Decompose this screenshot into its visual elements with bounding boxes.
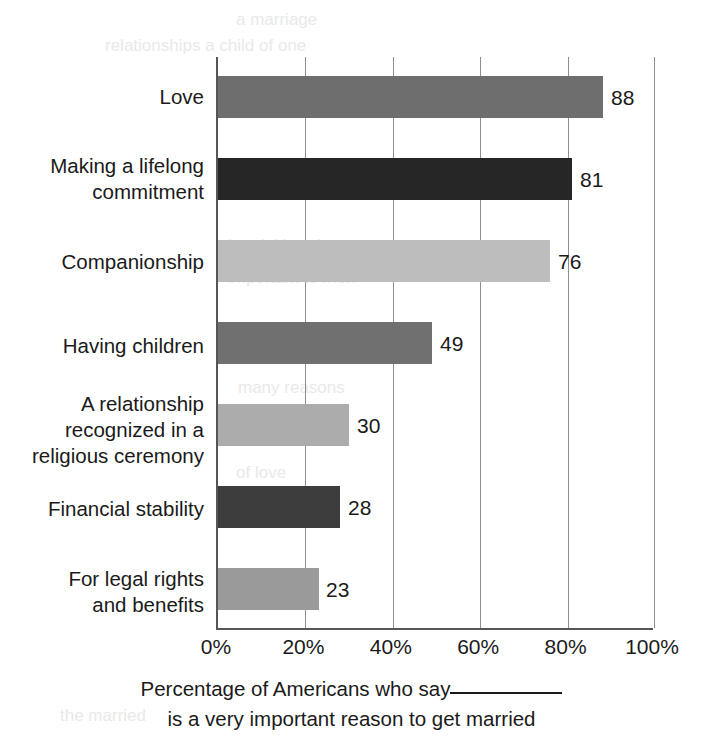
bar-chart: Love Making a lifelong commitment Compan… — [0, 0, 703, 745]
bar-value-companionship: 76 — [558, 251, 581, 272]
xtick-label-0: 0% — [201, 636, 231, 657]
bar-love[interactable] — [218, 76, 603, 118]
category-label-for-legal-rights-and-benefits: For legal rights and benefits — [0, 566, 204, 618]
bar-row: 76 — [218, 240, 653, 282]
fill-in-blank-rule — [450, 692, 562, 694]
bar-value-a-relationship-recognized-in-a-religious-ceremony: 30 — [357, 415, 380, 436]
category-label-making-a-lifelong-commitment: Making a lifelong commitment — [0, 153, 204, 205]
category-label-love: Love — [0, 84, 204, 110]
bar-for-legal-rights-and-benefits[interactable] — [218, 568, 319, 610]
bar-row: 23 — [218, 568, 653, 610]
bar-row: 49 — [218, 322, 653, 364]
category-label-companionship: Companionship — [0, 249, 204, 275]
bar-a-relationship-recognized-in-a-religious-ceremony[interactable] — [218, 404, 349, 446]
category-label-a-relationship-recognized-in-a-religious-ceremony: A relationship recognized in a religious… — [0, 391, 204, 469]
x-axis-title-line-2: is a very important reason to get marrie… — [0, 704, 703, 734]
category-label-having-children: Having children — [0, 333, 204, 359]
bar-having-children[interactable] — [218, 322, 432, 364]
bar-row: 88 — [218, 76, 653, 118]
x-axis-title-text-1: Percentage of Americans who say — [141, 677, 451, 700]
xtick-label-60: 60% — [457, 636, 499, 657]
bar-companionship[interactable] — [218, 240, 550, 282]
bar-value-for-legal-rights-and-benefits: 23 — [326, 579, 349, 600]
bar-value-making-a-lifelong-commitment: 81 — [580, 169, 603, 190]
x-axis-title-line-1: Percentage of Americans who say — [0, 674, 703, 704]
xtick-label-100: 100% — [625, 636, 679, 657]
bar-financial-stability[interactable] — [218, 486, 340, 528]
bar-row: 81 — [218, 158, 653, 200]
bar-value-love: 88 — [611, 87, 634, 108]
gridline-100 — [654, 57, 655, 628]
x-axis-title: Percentage of Americans who say is a ver… — [0, 674, 703, 734]
bar-value-having-children: 49 — [440, 333, 463, 354]
category-label-financial-stability: Financial stability — [0, 496, 204, 522]
xtick-label-20: 20% — [282, 636, 324, 657]
bar-value-financial-stability: 28 — [348, 497, 371, 518]
xtick-label-80: 80% — [545, 636, 587, 657]
bar-row: 30 — [218, 404, 653, 446]
bar-making-a-lifelong-commitment[interactable] — [218, 158, 572, 200]
bar-row: 28 — [218, 486, 653, 528]
xtick-label-40: 40% — [370, 636, 412, 657]
plot-area: 88 81 76 49 30 28 23 — [216, 57, 653, 630]
